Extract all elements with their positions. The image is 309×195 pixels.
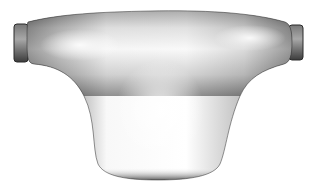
bottom-shading bbox=[97, 130, 226, 180]
t-handle-render bbox=[0, 0, 309, 195]
left-end-cap bbox=[14, 24, 28, 62]
left-highlight bbox=[40, 29, 120, 61]
right-highlight bbox=[214, 25, 286, 51]
